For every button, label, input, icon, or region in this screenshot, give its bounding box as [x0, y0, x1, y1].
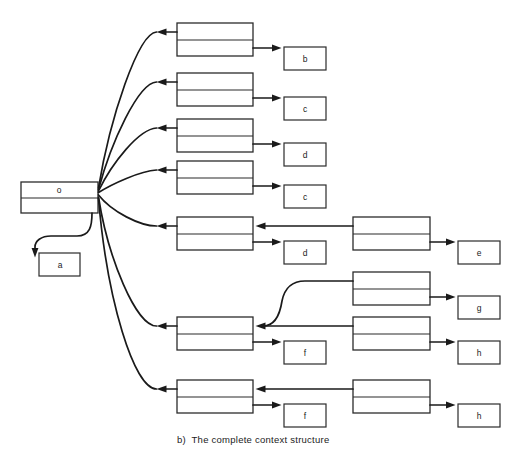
frame-root-label: o — [57, 185, 62, 195]
value-box-d1-label: d — [303, 150, 308, 160]
frame-subcontext-6a — [353, 272, 430, 305]
frame-context-7 — [177, 380, 253, 413]
value-box-a-label: a — [58, 260, 63, 270]
value-box-g: g — [458, 296, 500, 319]
value-box-b-label: b — [303, 54, 308, 64]
edge-root-to-a — [35, 213, 92, 248]
frame-subcontext-7a — [353, 380, 430, 413]
edge-context-1-curve — [99, 32, 157, 188]
value-box-g-label: g — [477, 303, 482, 313]
value-box-f1: f — [284, 341, 326, 364]
frame-root: o — [21, 182, 98, 213]
value-box-h2-label: h — [477, 411, 482, 421]
value-box-c1: c — [284, 97, 326, 120]
value-box-e-label: e — [477, 248, 482, 258]
value-box-f2: f — [284, 404, 326, 427]
value-box-d1: d — [284, 143, 326, 166]
frame-context-1 — [177, 23, 253, 56]
value-box-a: a — [39, 253, 80, 276]
edges-contexts-to-root — [99, 32, 178, 389]
edge-context-5-curve — [99, 195, 157, 226]
value-box-b: b — [284, 47, 326, 70]
figure-caption: b) The complete context structure — [177, 434, 329, 445]
edge-context-6-curve — [99, 197, 157, 326]
value-box-c2: c — [284, 185, 326, 208]
value-box-h1: h — [458, 341, 500, 364]
frame-context-5 — [177, 217, 253, 250]
figure-canvas: o a — [0, 0, 521, 459]
value-box-d2-label: d — [303, 248, 308, 258]
value-box-e: e — [458, 241, 500, 264]
edge-subcontext-6a-to-context-6 — [263, 281, 353, 326]
frame-subcontext-6b — [353, 317, 430, 350]
value-box-h2: h — [458, 404, 500, 427]
frame-context-3 — [177, 119, 253, 152]
value-box-h1-label: h — [477, 348, 482, 358]
value-box-d2: d — [284, 241, 326, 264]
frame-context-6 — [177, 317, 253, 350]
frame-context-2 — [177, 73, 253, 106]
context-structure-diagram: o a — [0, 0, 521, 459]
frame-subcontext-5a — [353, 217, 430, 250]
frame-context-4 — [177, 161, 253, 194]
